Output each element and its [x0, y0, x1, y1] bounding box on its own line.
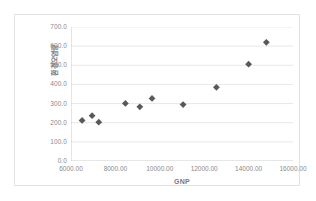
x-axis-title: GNP [71, 178, 293, 185]
data-point [79, 117, 86, 124]
x-axis-tick-label: 8000.00 [104, 165, 128, 172]
y-axis-tick-label: 300.0 [19, 100, 67, 107]
y-axis-tick-labels: 700.0600.0500.0400.0300.0200.0100.00.0 [15, 27, 67, 161]
x-axis-tick-label: 10000.00 [146, 165, 173, 172]
y-axis-tick-label: 200.0 [19, 119, 67, 126]
data-point [149, 95, 156, 102]
data-point [180, 101, 187, 108]
plot-area [71, 27, 293, 161]
y-axis-tick-label: 400.0 [19, 80, 67, 87]
data-point [122, 100, 129, 107]
x-axis-tick-labels: 6000.008000.0010000.0012000.0014000.0016… [71, 165, 293, 177]
chart-frame: 환경오염량 700.0600.0500.0400.0300.0200.0100.… [14, 14, 300, 186]
data-point [89, 112, 96, 119]
data-point [245, 61, 252, 68]
data-point [263, 39, 270, 46]
x-axis-tick-label: 16000.00 [279, 165, 306, 172]
x-axis-tick-label: 14000.00 [235, 165, 262, 172]
scatter-series [71, 27, 293, 161]
y-axis-tick-label: 700.0 [19, 23, 67, 30]
y-axis-tick-label: 100.0 [19, 138, 67, 145]
y-axis-tick-label: 500.0 [19, 61, 67, 68]
data-point [136, 103, 143, 110]
data-point [95, 119, 102, 126]
data-point [213, 84, 220, 91]
y-axis-tick-label: 0.0 [19, 157, 67, 164]
x-axis-tick-label: 6000.00 [59, 165, 83, 172]
x-axis-tick-label: 12000.00 [191, 165, 218, 172]
y-axis-tick-label: 600.0 [19, 42, 67, 49]
